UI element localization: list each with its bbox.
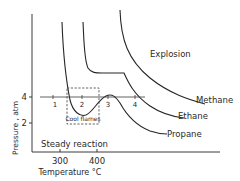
y-axis-label: Pressure , atm bbox=[11, 101, 20, 155]
steady-reaction-label: Steady reaction bbox=[41, 139, 108, 149]
cool-flames-label: Cool flames bbox=[65, 115, 100, 122]
combustion-regime-diagram: 4 2 300 400 Temperature °C Pressure , at… bbox=[0, 0, 240, 181]
y-tick-label-4: 4 bbox=[22, 92, 27, 102]
marker-2-label: 2 bbox=[80, 101, 84, 109]
marker-3-label: 3 bbox=[106, 101, 110, 109]
propane-label: Propane bbox=[167, 129, 202, 139]
explosion-label: Explosion bbox=[150, 49, 191, 59]
ethane-label: Ethane bbox=[178, 111, 208, 121]
x-tick-label-300: 300 bbox=[52, 156, 68, 166]
marker-1-label: 1 bbox=[53, 101, 57, 109]
x-tick-label-400: 400 bbox=[89, 156, 105, 166]
marker-4-label: 4 bbox=[133, 101, 138, 109]
y-tick-label-2: 2 bbox=[22, 118, 27, 128]
diagram-canvas: 4 2 300 400 Temperature °C Pressure , at… bbox=[0, 0, 240, 181]
methane-label: Methane bbox=[196, 95, 233, 105]
x-axis-label: Temperature °C bbox=[38, 168, 102, 177]
